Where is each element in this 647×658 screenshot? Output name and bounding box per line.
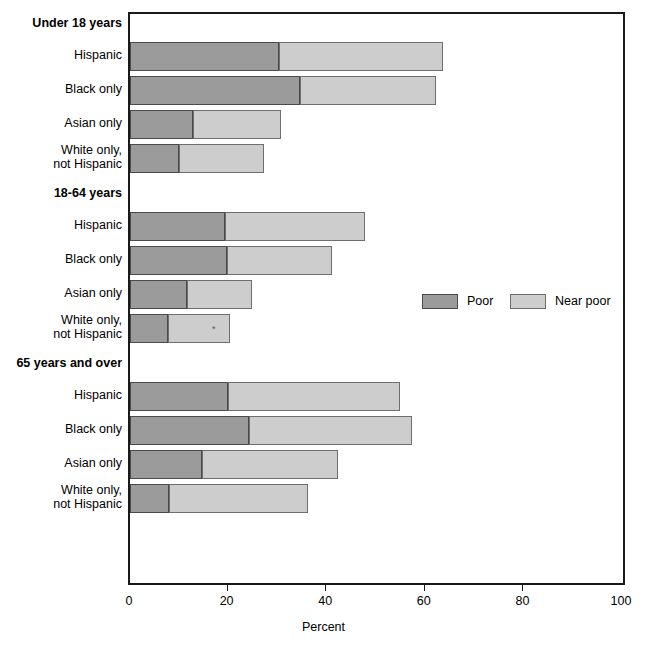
bar-segment-poor <box>130 144 179 173</box>
bar-row-1-asian <box>130 280 252 309</box>
bar-segment-near-poor <box>300 76 436 105</box>
row-label-0-white: White only, not Hispanic <box>0 144 122 171</box>
bar-segment-near-poor <box>187 280 252 309</box>
bar-segment-near-poor <box>228 382 400 411</box>
bar-row-2-asian <box>130 450 338 479</box>
bar-row-1-black <box>130 246 332 275</box>
x-axis-tick-label-40: 40 <box>318 594 332 608</box>
bar-row-0-white <box>130 144 264 173</box>
row-label-0-black: Black only <box>0 83 122 97</box>
bar-segment-poor <box>130 416 249 445</box>
x-axis-tick-label-100: 100 <box>611 594 632 608</box>
category-labels-column: Under 18 yearsHispanicBlack onlyAsian on… <box>0 12 122 585</box>
bar-segment-near-poor <box>225 212 365 241</box>
bar-segment-poor <box>130 110 193 139</box>
bar-segment-poor <box>130 280 187 309</box>
row-label-0-hispanic: Hispanic <box>0 49 122 63</box>
bar-segment-near-poor <box>193 110 281 139</box>
bar-row-2-black <box>130 416 412 445</box>
row-label-0-asian: Asian only <box>0 117 122 131</box>
bar-segment-poor <box>130 314 168 343</box>
x-axis-tick-20 <box>227 585 228 591</box>
row-label-1-black: Black only <box>0 253 122 267</box>
bar-segment-poor <box>130 484 169 513</box>
bar-row-0-hispanic <box>130 42 443 71</box>
group-header-0: Under 18 years <box>0 16 122 30</box>
x-axis-tick-80 <box>522 585 523 591</box>
x-axis-tick-40 <box>325 585 326 591</box>
x-axis-tick-60 <box>424 585 425 591</box>
bar-segment-near-poor <box>179 144 264 173</box>
bar-row-2-hispanic <box>130 382 400 411</box>
bar-segment-near-poor <box>202 450 338 479</box>
bar-segment-near-poor <box>249 416 413 445</box>
bar-segment-poor <box>130 76 300 105</box>
group-header-2: 65 years and over <box>0 356 122 370</box>
bar-segment-near-poor <box>227 246 332 275</box>
bar-segment-near-poor <box>168 314 230 343</box>
bar-row-0-black <box>130 76 436 105</box>
bar-segment-poor <box>130 212 225 241</box>
bar-row-0-asian <box>130 110 281 139</box>
bar-row-1-white: * <box>130 314 230 343</box>
row-label-1-white: White only, not Hispanic <box>0 314 122 341</box>
significance-marker: * <box>212 325 216 334</box>
legend-swatch-icon <box>422 294 458 309</box>
legend-item-poor[interactable]: Poor <box>422 292 493 310</box>
legend-label: Poor <box>467 294 493 308</box>
row-label-2-black: Black only <box>0 423 122 437</box>
bar-segment-near-poor <box>279 42 443 71</box>
row-label-2-white: White only, not Hispanic <box>0 484 122 511</box>
x-axis-title: Percent <box>0 620 647 634</box>
bar-segment-poor <box>130 42 279 71</box>
x-axis-tick-label-0: 0 <box>126 594 133 608</box>
group-header-1: 18-64 years <box>0 186 122 200</box>
x-axis-tick-label-60: 60 <box>417 594 431 608</box>
bar-row-2-white <box>130 484 308 513</box>
row-label-2-hispanic: Hispanic <box>0 389 122 403</box>
legend-item-near-poor[interactable]: Near poor <box>510 292 611 310</box>
bar-segment-poor <box>130 246 227 275</box>
legend-swatch-icon <box>510 294 546 309</box>
bar-segment-poor <box>130 450 202 479</box>
bar-segment-poor <box>130 382 228 411</box>
legend-label: Near poor <box>555 294 611 308</box>
row-label-1-hispanic: Hispanic <box>0 219 122 233</box>
poverty-status-stacked-bar-chart: Under 18 yearsHispanicBlack onlyAsian on… <box>0 0 647 658</box>
x-axis-tick-label-80: 80 <box>515 594 529 608</box>
x-axis-tick-label-20: 20 <box>220 594 234 608</box>
row-label-1-asian: Asian only <box>0 287 122 301</box>
row-label-2-asian: Asian only <box>0 457 122 471</box>
bar-segment-near-poor <box>169 484 308 513</box>
bar-row-1-hispanic <box>130 212 365 241</box>
